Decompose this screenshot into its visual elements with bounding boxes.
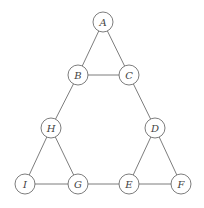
node-label: G bbox=[74, 179, 82, 190]
node-h: H bbox=[41, 118, 61, 138]
node-f: F bbox=[171, 174, 191, 194]
node-g: G bbox=[68, 174, 88, 194]
node-label: E bbox=[124, 179, 133, 190]
node-label: H bbox=[46, 123, 56, 134]
node-label: C bbox=[125, 70, 133, 81]
node-c: C bbox=[119, 65, 139, 85]
edges-layer bbox=[25, 22, 181, 184]
node-e: E bbox=[119, 174, 139, 194]
node-label: F bbox=[177, 179, 186, 190]
node-i: I bbox=[15, 174, 35, 194]
node-label: D bbox=[150, 123, 159, 134]
node-label: B bbox=[73, 70, 81, 81]
node-label: A bbox=[98, 17, 106, 28]
nodes-layer: ABCHDIGEF bbox=[15, 12, 191, 194]
node-b: B bbox=[68, 65, 88, 85]
graph-diagram: ABCHDIGEF bbox=[0, 0, 204, 208]
node-a: A bbox=[93, 12, 113, 32]
node-d: D bbox=[145, 118, 165, 138]
